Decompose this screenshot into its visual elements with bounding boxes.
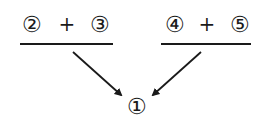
right-arrow-icon <box>153 52 201 95</box>
connector-layer <box>0 0 262 119</box>
left-arrow-icon <box>73 52 121 95</box>
